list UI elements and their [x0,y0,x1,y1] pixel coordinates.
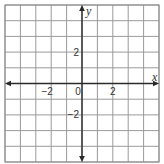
x-tick-label: 2 [110,86,116,97]
y-axis-label: y [85,4,92,18]
coordinate-plane: −2022−2 x y [0,0,164,164]
y-tick-label: −2 [68,109,80,120]
x-axis-label: x [151,70,158,84]
x-axis-left-arrow-icon [5,81,11,87]
origin-label: 0 [75,86,81,97]
x-tick-label: −2 [41,86,53,97]
y-tick-label: 2 [73,47,79,58]
axes [5,5,159,162]
y-axis-up-arrow-icon [79,5,85,11]
y-axis-down-arrow-icon [79,156,85,162]
